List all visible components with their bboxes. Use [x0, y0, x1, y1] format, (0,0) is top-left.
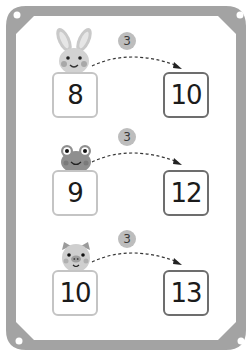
- corner-dot-icon: [238, 338, 245, 345]
- end-number-box: 12: [163, 170, 209, 216]
- step-badge: 3: [118, 32, 136, 50]
- jump-arrow-icon: [90, 50, 190, 74]
- start-number-box: 10: [52, 270, 98, 316]
- end-number-box: 13: [163, 270, 209, 316]
- step-badge: 3: [118, 128, 136, 146]
- jump-arrow-icon: [90, 246, 190, 270]
- pig-icon: [58, 240, 94, 274]
- end-number-box: 10: [163, 72, 209, 118]
- problem-row-1: 3 8 10: [0, 26, 252, 126]
- corner-dot-icon: [16, 338, 23, 345]
- corner-dot-icon: [237, 12, 244, 19]
- problem-row-3: 3 10 13: [0, 224, 252, 324]
- corner-dot-icon: [14, 12, 21, 19]
- problem-row-2: 3 9 12: [0, 124, 252, 224]
- start-number-box: 8: [52, 72, 98, 118]
- jump-arrow-icon: [90, 146, 190, 170]
- start-number-box: 9: [52, 170, 98, 216]
